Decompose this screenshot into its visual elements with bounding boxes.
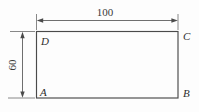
arrowhead-left-icon <box>37 18 43 23</box>
width-dimension-label: 100 <box>97 6 114 18</box>
height-dimension-label: 60 <box>6 59 18 71</box>
vertex-label-a: A <box>39 86 47 98</box>
vertex-label-d: D <box>40 35 49 47</box>
vertex-label-b: B <box>183 87 190 99</box>
vertex-label-c: C <box>183 30 191 42</box>
arrowhead-up-icon <box>20 32 24 38</box>
arrowhead-right-icon <box>171 18 177 23</box>
figure-canvas: 100 60 D C A B <box>0 0 199 112</box>
rectangle-outline <box>37 32 179 99</box>
arrowhead-down-icon <box>20 91 24 97</box>
geometry-figure: 100 60 D C A B <box>0 0 199 112</box>
